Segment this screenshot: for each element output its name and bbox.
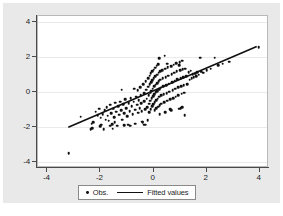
x-tick-mark	[46, 168, 47, 172]
legend-label-fitted-values: Fitted values	[147, 188, 188, 197]
y-tick-label: 0	[8, 87, 30, 96]
x-tick-mark	[206, 168, 207, 172]
plot-area	[37, 15, 268, 167]
y-tick-label: -4	[8, 156, 30, 165]
legend-label-obs: Obs.	[93, 188, 108, 197]
x-tick-label: 2	[203, 173, 207, 182]
fitted-line-segment	[68, 47, 256, 128]
y-axis-tick-labels: -4-2024	[8, 7, 30, 200]
x-tick-mark	[259, 168, 260, 172]
chart-screenshot: -4-2024 -4-2024 Obs. Fitted values	[0, 0, 283, 216]
legend-entry-obs: Obs.	[86, 188, 108, 197]
legend-line-icon	[117, 192, 143, 194]
y-tick-mark	[32, 91, 36, 92]
x-tick-label: -2	[96, 173, 103, 182]
x-tick-mark	[99, 168, 100, 172]
y-tick-mark	[32, 21, 36, 22]
fitted-line	[38, 16, 267, 166]
legend-dot-icon	[86, 191, 89, 194]
y-tick-label: 2	[8, 52, 30, 61]
chart-legend: Obs. Fitted values	[78, 185, 196, 200]
y-tick-mark	[32, 161, 36, 162]
x-tick-label: 4	[257, 173, 261, 182]
x-tick-mark	[153, 168, 154, 172]
x-tick-label: 0	[150, 173, 154, 182]
legend-entry-fitted-values: Fitted values	[117, 188, 188, 197]
y-tick-label: -2	[8, 121, 30, 130]
plot-inner	[38, 16, 267, 166]
y-tick-mark	[32, 126, 36, 127]
graph-region: -4-2024 -4-2024 Obs. Fitted values	[8, 7, 275, 200]
x-tick-label: -4	[43, 173, 50, 182]
y-tick-label: 4	[8, 17, 30, 26]
y-tick-mark	[32, 56, 36, 57]
